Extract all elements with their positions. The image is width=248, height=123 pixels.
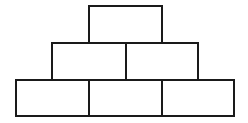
brick-bottom-right bbox=[161, 79, 235, 117]
brick-middle-left bbox=[51, 42, 127, 81]
brick-bottom-left bbox=[15, 79, 90, 117]
brick-top bbox=[88, 5, 163, 44]
brick-middle-right bbox=[125, 42, 199, 81]
brick-bottom-center bbox=[88, 79, 163, 117]
